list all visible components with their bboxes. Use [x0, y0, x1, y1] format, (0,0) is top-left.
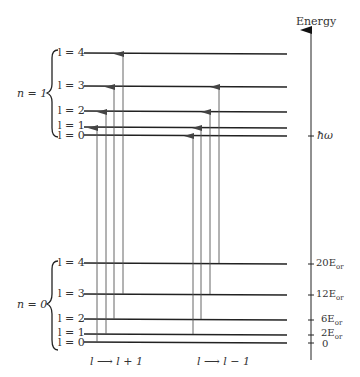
braces: [47, 50, 58, 350]
lowering-label: l ⟶ l − 1: [197, 356, 250, 367]
level-n0-l0: [84, 342, 287, 343]
raising-label: l ⟶ l + 1: [90, 356, 143, 367]
level-n1-l3: [84, 86, 287, 87]
level-label-n1-l2: l = 2: [58, 105, 85, 116]
level-label-n0-l4: l = 4: [58, 257, 85, 268]
tick-label-hbar-omega: ħω: [317, 130, 333, 141]
level-label-n1-l0: l = 0: [58, 130, 85, 141]
raising-arrows: [97, 54, 123, 342]
level-label-n0-l2: l = 2: [58, 313, 85, 324]
energy-level-diagram: [0, 0, 360, 377]
level-label-n1-l3: l = 3: [58, 80, 85, 91]
level-n1-l4: [84, 53, 287, 54]
brace-n1: [47, 50, 58, 137]
tick-label-12: 12Eor: [316, 289, 344, 302]
tick-label-0: 0: [322, 339, 328, 349]
lowering-arrows: [193, 87, 219, 334]
group-label-n1: n = 1: [17, 88, 47, 99]
level-label-n0-l0: l = 0: [58, 337, 85, 348]
level-label-n1-l4: l = 4: [58, 47, 85, 58]
group-label-n0: n = 0: [17, 299, 47, 310]
energy-axis: [308, 30, 314, 360]
axis-title: Energy: [296, 15, 336, 28]
brace-n0: [47, 261, 58, 350]
level-n0-l2: [84, 319, 287, 320]
level-label-n0-l3: l = 3: [58, 288, 85, 299]
tick-label-20: 20Eor: [316, 258, 344, 271]
tick-label-6: 6Eor: [321, 314, 342, 327]
level-n0-l1: [84, 334, 287, 335]
